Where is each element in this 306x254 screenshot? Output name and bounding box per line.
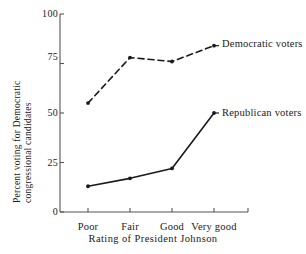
ytick-label-50: 50	[34, 108, 58, 118]
xtick-label-very-good: Very good	[186, 221, 242, 232]
series-label-republican: Republican voters	[222, 107, 302, 118]
chart-container: 100 75 50 25 0 Poor Fair Good Very good …	[0, 0, 306, 254]
chart-series	[86, 44, 219, 188]
ytick-label-25: 25	[34, 158, 58, 168]
y-axis-title-line2: congressional candidates	[23, 102, 33, 203]
x-axis-title: Rating of President Johnson	[0, 233, 306, 244]
chart-axes	[60, 14, 248, 212]
xtick-label-fair: Fair	[107, 221, 153, 232]
ytick-label-75: 75	[34, 52, 58, 62]
ytick-label-0: 0	[34, 207, 58, 217]
series-label-democratic: Democratic voters	[222, 38, 303, 49]
y-axis-title-line1: Percent voting for Democratic	[12, 80, 22, 203]
xtick-label-poor: Poor	[64, 221, 112, 232]
ytick-label-100: 100	[34, 9, 58, 19]
